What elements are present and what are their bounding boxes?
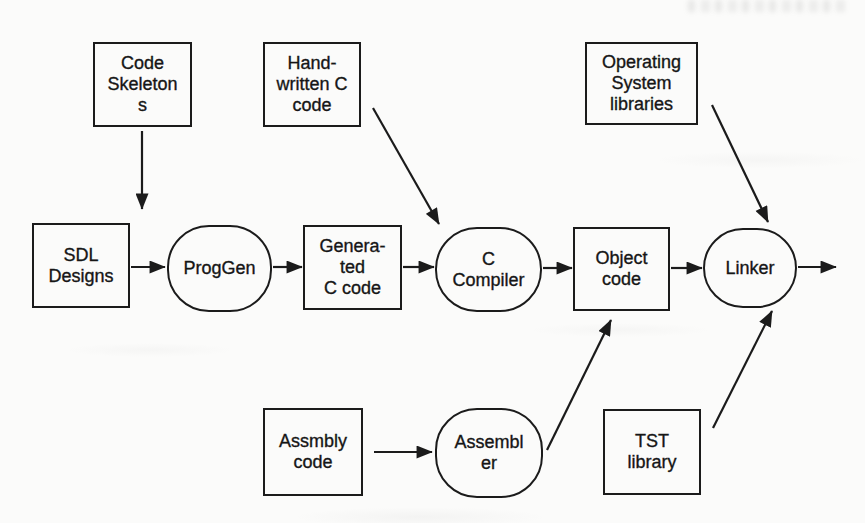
edge-hand-written-c-to-c-compiler bbox=[373, 108, 439, 224]
edge-tst-library-to-linker bbox=[713, 311, 772, 428]
node-assmbly-code-label: Assmbly code bbox=[279, 431, 347, 473]
node-hand-written-c-code-label: Hand- written C code bbox=[276, 53, 347, 116]
node-proggen: ProgGen bbox=[167, 225, 272, 312]
node-tst-library: TST library bbox=[603, 409, 701, 495]
node-hand-written-c-code: Hand- written C code bbox=[263, 42, 361, 127]
edge-assembler-to-object-code bbox=[547, 320, 611, 450]
node-assembler-label: Assembl er bbox=[454, 432, 523, 474]
node-assmbly-code: Assmbly code bbox=[263, 408, 363, 496]
node-code-skeletons: Code Skeleton s bbox=[93, 42, 192, 127]
node-linker-label: Linker bbox=[725, 258, 774, 279]
edge-os-libraries-to-linker bbox=[712, 105, 768, 222]
node-c-compiler-label: C Compiler bbox=[452, 249, 524, 291]
node-tst-library-label: TST library bbox=[627, 431, 676, 473]
node-generated-c-code: Genera- ted C code bbox=[303, 225, 402, 310]
node-linker: Linker bbox=[703, 228, 797, 308]
node-operating-system-libraries: Operating System libraries bbox=[585, 42, 698, 125]
flow-diagram: Code Skeleton s Hand- written C code Ope… bbox=[0, 0, 865, 523]
node-proggen-label: ProgGen bbox=[183, 258, 255, 279]
node-sdl-designs-label: SDL Designs bbox=[48, 245, 113, 287]
node-object-code: Object code bbox=[573, 227, 670, 311]
node-code-skeletons-label: Code Skeleton s bbox=[107, 53, 177, 116]
node-c-compiler: C Compiler bbox=[435, 227, 542, 312]
node-sdl-designs: SDL Designs bbox=[32, 223, 130, 308]
node-assembler: Assembl er bbox=[435, 408, 543, 498]
node-generated-c-code-label: Genera- ted C code bbox=[319, 236, 385, 299]
node-object-code-label: Object code bbox=[595, 248, 647, 290]
node-operating-system-libraries-label: Operating System libraries bbox=[602, 52, 681, 115]
